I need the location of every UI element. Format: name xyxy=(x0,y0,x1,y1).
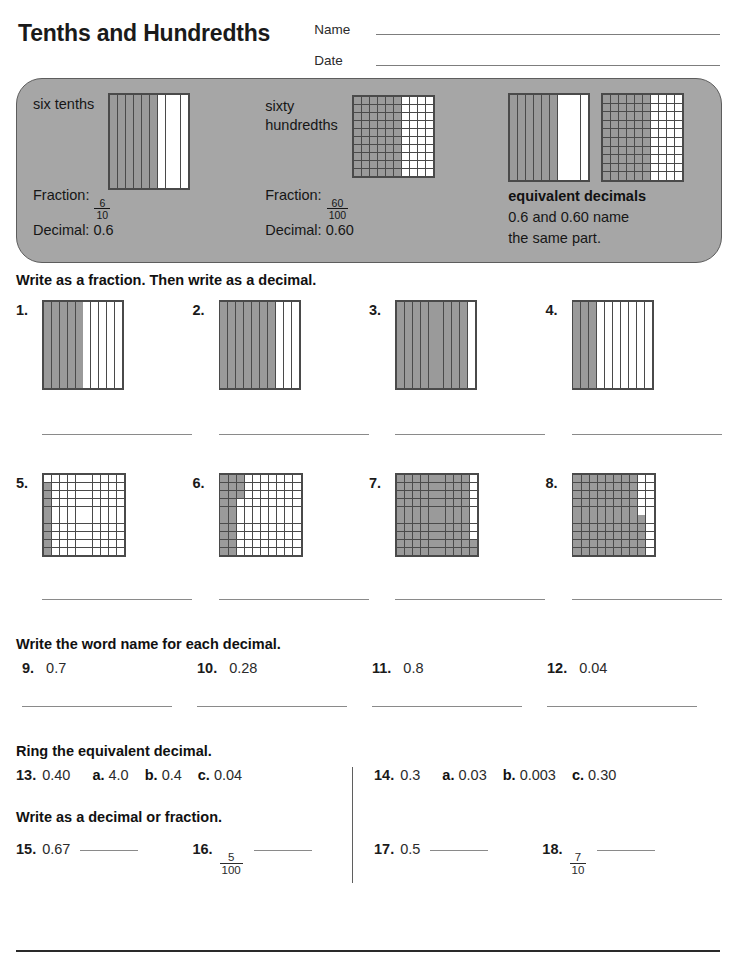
write-18-answer-line[interactable] xyxy=(597,850,655,851)
grid-cell xyxy=(627,129,634,137)
grid-cell xyxy=(454,515,461,522)
grid-cell xyxy=(394,153,401,160)
grid-cell xyxy=(394,169,401,176)
write-16-answer-line[interactable] xyxy=(254,850,312,851)
write-17-answer-line[interactable] xyxy=(430,850,488,851)
grid-cell xyxy=(646,491,653,498)
answer-line[interactable] xyxy=(547,706,697,707)
grid-cell xyxy=(659,104,666,112)
grid-cell xyxy=(269,515,276,522)
grid-cell xyxy=(285,532,292,539)
ring-13-choice-a[interactable]: a. 4.0 xyxy=(92,767,128,783)
grid-cell xyxy=(454,491,461,498)
grid-cell xyxy=(426,137,433,144)
grid-cell xyxy=(237,524,244,531)
grid-cell xyxy=(418,105,425,112)
grid-cell xyxy=(101,507,108,514)
grid-cell xyxy=(462,507,469,514)
grid-cell xyxy=(614,532,621,539)
date-label: Date xyxy=(314,53,366,68)
grid-cell xyxy=(93,499,100,506)
answer-line[interactable] xyxy=(395,599,545,600)
answer-line[interactable] xyxy=(572,434,722,435)
answer-line[interactable] xyxy=(395,434,545,435)
name-write-line[interactable] xyxy=(376,34,720,35)
grid-cell xyxy=(437,483,444,490)
grid-cell xyxy=(630,548,637,555)
grid-cell xyxy=(413,483,420,490)
grid-cell xyxy=(638,532,645,539)
grid-cell xyxy=(426,161,433,168)
answer-line-cell xyxy=(372,706,547,707)
grid-cell xyxy=(598,540,605,547)
grid-cell xyxy=(285,524,292,531)
grid-cell xyxy=(606,524,613,531)
grid-cell xyxy=(253,540,260,547)
problem-number: 9. xyxy=(22,660,34,676)
write-problem-15: 15. 0.67 16. 5100 xyxy=(16,841,352,876)
grid-cell xyxy=(397,491,404,498)
example2-decimal-value: 0.60 xyxy=(326,222,354,238)
grid-cell xyxy=(646,507,653,514)
grid-cell xyxy=(582,507,589,514)
ring-14-choice-b[interactable]: b. 0.003 xyxy=(503,767,556,783)
grid-cell xyxy=(245,491,252,498)
grid-cell xyxy=(675,155,682,163)
grid-cell xyxy=(418,137,425,144)
grid-cell xyxy=(651,155,658,163)
answer-line[interactable] xyxy=(572,599,722,600)
grid-cell xyxy=(468,302,475,388)
grid-cell xyxy=(109,524,116,531)
grid-cell xyxy=(397,540,404,547)
grid-cell xyxy=(99,302,106,388)
grid-cell xyxy=(354,169,361,176)
answer-line[interactable] xyxy=(197,706,347,707)
grid-cell xyxy=(622,499,629,506)
ring-13-choice-b[interactable]: b. 0.4 xyxy=(145,767,182,783)
date-write-line[interactable] xyxy=(376,65,720,66)
answer-line[interactable] xyxy=(219,599,369,600)
grid-cell xyxy=(52,524,59,531)
grid-cell xyxy=(220,507,227,514)
grid-cell xyxy=(606,540,613,547)
ring-14-choice-a[interactable]: a. 0.03 xyxy=(442,767,486,783)
section5-instruction: Write as a decimal or fraction. xyxy=(16,809,734,825)
grid-cell xyxy=(675,138,682,146)
grid-cell xyxy=(614,548,621,555)
page-header: Tenths and Hundredths Name Date xyxy=(0,0,734,78)
ring-14-choice-c[interactable]: c. 0.30 xyxy=(572,767,616,783)
grid-cell xyxy=(394,161,401,168)
answer-line[interactable] xyxy=(22,706,172,707)
grid-cell xyxy=(619,172,626,180)
write-15-answer-line[interactable] xyxy=(80,850,138,851)
grid-cell xyxy=(101,540,108,547)
grid-cell xyxy=(269,540,276,547)
grid-cell xyxy=(470,548,477,555)
grid-cell xyxy=(573,475,580,482)
grid-cell xyxy=(405,483,412,490)
section4: Ring the equivalent decimal. 13. 0.40 a.… xyxy=(0,743,734,876)
grid-cell xyxy=(109,540,116,547)
grid-cell xyxy=(60,507,67,514)
answer-line[interactable] xyxy=(42,599,192,600)
answer-line[interactable] xyxy=(42,434,192,435)
grid-cell xyxy=(635,138,642,146)
problem-1: 1. xyxy=(16,300,193,435)
answer-line-cell xyxy=(197,706,372,707)
answer-line[interactable] xyxy=(219,434,369,435)
grid-cell xyxy=(410,121,417,128)
ring-13-choice-c[interactable]: c. 0.04 xyxy=(198,767,242,783)
grid-cell xyxy=(470,524,477,531)
decimal-value: 0.7 xyxy=(46,660,66,676)
write-17-value: 0.5 xyxy=(400,841,420,857)
grid-cell xyxy=(84,499,91,506)
grid-cell xyxy=(410,97,417,104)
grid-cell xyxy=(635,121,642,129)
answer-line[interactable] xyxy=(372,706,522,707)
grid-cell xyxy=(635,95,642,103)
grid-cell xyxy=(651,112,658,120)
grid-cell xyxy=(619,155,626,163)
grid-cell xyxy=(470,515,477,522)
grid-cell xyxy=(598,507,605,514)
grid-cell xyxy=(220,532,227,539)
